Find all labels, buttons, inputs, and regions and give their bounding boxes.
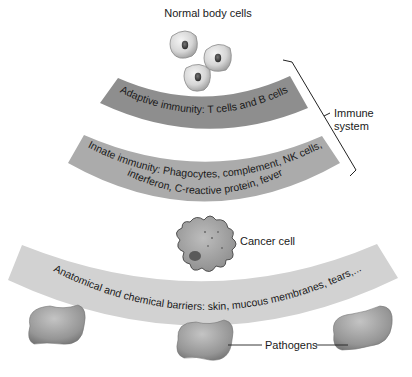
cancer-cell-label: Cancer cell	[240, 235, 295, 247]
normal-cell-icon	[170, 31, 197, 58]
normal-cell-icon	[184, 64, 210, 91]
pathogens-callout: Pathogens	[228, 339, 348, 351]
normal-body-cells-label: Normal body cells	[164, 7, 252, 19]
pathogens-label: Pathogens	[265, 339, 318, 351]
pathogen-icon	[333, 306, 392, 350]
pathogen-icon	[29, 305, 85, 344]
cancer-cell-icon	[176, 216, 236, 272]
immune-system-label-line2: system	[334, 120, 369, 132]
innate-immunity-band: Innate immunity: Phagocytes, complement,…	[68, 135, 340, 202]
pathogen-icon	[177, 320, 233, 360]
normal-cell-icon	[204, 44, 231, 71]
immune-defense-diagram: Normal body cells Adaptive immunity: T c…	[0, 0, 412, 377]
normal-body-cells	[170, 31, 231, 91]
immune-system-label-line1: Immune	[334, 107, 374, 119]
